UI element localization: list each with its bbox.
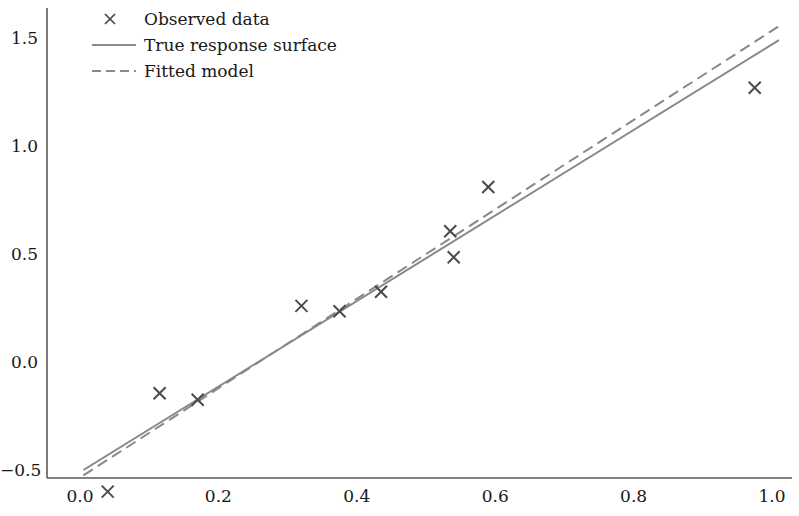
x-tick-label: 0.4 (327, 486, 387, 506)
data-point-marker (154, 387, 166, 399)
data-point-marker (375, 286, 387, 298)
data-point-marker (749, 82, 761, 94)
data-point-marker (295, 300, 307, 312)
y-tick-label: 0.5 (0, 244, 38, 264)
data-point-marker (334, 305, 346, 317)
data-point-marker (482, 181, 494, 193)
legend-label-observed-data: Observed data (144, 9, 270, 29)
figure-canvas: 1.51.00.50.0−0.5 0.00.20.40.60.81.0 Obse… (0, 0, 799, 516)
solid-line-icon (84, 32, 144, 58)
legend-label-fitted-model: Fitted model (144, 61, 254, 81)
legend-entry-observed-data: Observed data (84, 6, 270, 32)
legend-label-true-response-surface: True response surface (144, 35, 337, 55)
x-tick-label: 1.0 (742, 486, 799, 506)
y-tick-label: 0.0 (0, 352, 38, 372)
dashed-line-icon (84, 58, 144, 84)
x-tick-label: 0.0 (50, 486, 110, 506)
legend-entry-fitted-model: Fitted model (84, 58, 254, 84)
data-point-marker (444, 225, 456, 237)
observed-data-points (102, 82, 761, 498)
x-tick-label: 0.6 (465, 486, 525, 506)
chart-legend: Observed data True response surface Fitt… (84, 4, 384, 88)
legend-entry-true-response-surface: True response surface (84, 32, 337, 58)
x-tick-label: 0.2 (188, 486, 248, 506)
data-point-marker (448, 251, 460, 263)
y-tick-label: −0.5 (0, 460, 38, 480)
x-marker-icon (84, 6, 144, 32)
true-response-surface-line (83, 40, 778, 470)
fitted-model-line (83, 26, 778, 475)
x-tick-label: 0.8 (604, 486, 664, 506)
y-tick-label: 1.0 (0, 136, 38, 156)
y-tick-label: 1.5 (0, 28, 38, 48)
